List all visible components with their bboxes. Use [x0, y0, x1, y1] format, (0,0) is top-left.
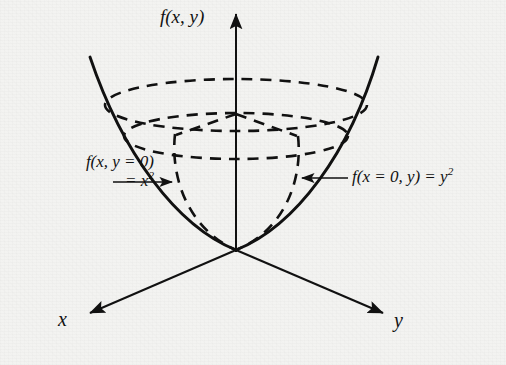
vertical-axis-label: f(x, y)	[160, 6, 204, 27]
x-axis	[90, 250, 236, 313]
ridge-line-left	[176, 114, 236, 135]
y-axis	[236, 250, 383, 313]
x-axis-label: x	[58, 308, 67, 330]
paraboloid-figure: f(x, y) x y f(x, y = 0) = x2 f(x = 0, y)…	[0, 0, 506, 365]
left-trace-line-2: = x2	[14, 171, 154, 190]
left-trace-expression: = x	[125, 171, 148, 190]
ridge-line-right	[236, 114, 297, 136]
right-trace-exponent: 2	[448, 165, 454, 177]
left-trace-annotation: f(x, y = 0) = x2	[14, 152, 154, 190]
left-trace-exponent: 2	[148, 169, 154, 181]
y-axis-label: y	[394, 309, 403, 331]
left-trace-line-1: f(x, y = 0)	[14, 152, 154, 171]
right-trace-expression: f(x = 0, y) = y	[352, 167, 448, 186]
right-trace-annotation: f(x = 0, y) = y2	[352, 167, 453, 186]
